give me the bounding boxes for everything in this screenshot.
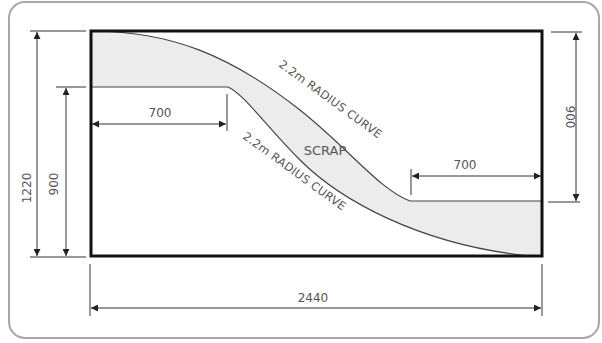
dimension-2440-label: 2440 bbox=[298, 291, 329, 305]
dimension-left-700-label: 700 bbox=[149, 106, 172, 120]
dimension-left-900-label: 900 bbox=[47, 173, 61, 196]
dimension-right-900-label: 900 bbox=[563, 106, 577, 129]
dimension-1220-label: 1220 bbox=[20, 173, 34, 204]
dimension-right-700-label: 700 bbox=[454, 158, 477, 172]
scrap-label: SCRAP bbox=[304, 143, 347, 158]
sheet-cutting-diagram: 1220 900 900 700 700 2440 2.2m RADIUS CU… bbox=[0, 0, 602, 343]
